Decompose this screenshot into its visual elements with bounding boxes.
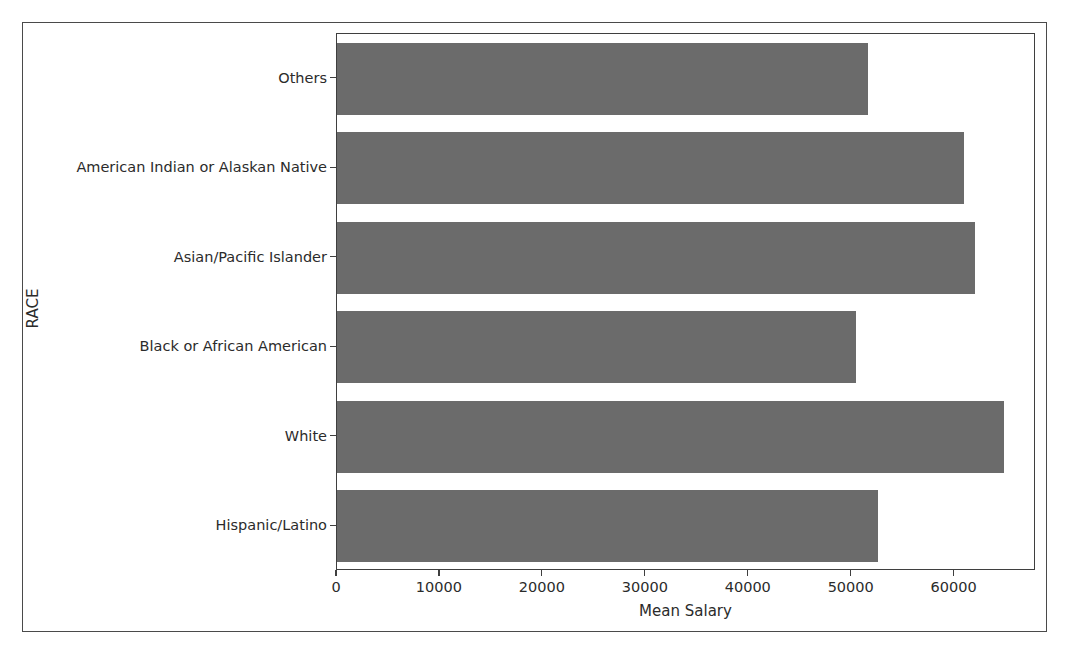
y-tick-label: Asian/Pacific Islander	[174, 250, 327, 265]
x-tick-mark	[850, 570, 851, 576]
x-tick-label: 10000	[416, 580, 462, 595]
x-tick-label: 40000	[725, 580, 771, 595]
bar	[337, 490, 878, 562]
y-tick-label: American Indian or Alaskan Native	[76, 160, 327, 175]
x-tick-mark	[953, 570, 954, 576]
x-tick-label: 30000	[622, 580, 668, 595]
y-tick-label: Hispanic/Latino	[216, 518, 327, 533]
x-tick-mark	[335, 570, 336, 576]
y-tick-label: White	[285, 429, 327, 444]
y-tick-label: Black or African American	[140, 339, 327, 354]
bar	[337, 401, 1004, 473]
bar	[337, 132, 964, 204]
x-tick-label: 20000	[519, 580, 565, 595]
x-tick-label: 0	[331, 580, 340, 595]
y-tick-label: Others	[278, 71, 327, 86]
plot-area	[336, 33, 1035, 570]
bar-chart: RACE Hispanic/LatinoWhiteBlack or Africa…	[0, 0, 1066, 658]
x-tick-label: 50000	[828, 580, 874, 595]
x-tick-mark	[747, 570, 748, 576]
x-axis-title: Mean Salary	[336, 604, 1035, 619]
x-tick-mark	[644, 570, 645, 576]
x-tick-label: 60000	[931, 580, 977, 595]
bar	[337, 222, 975, 294]
y-axis-tick-labels: Hispanic/LatinoWhiteBlack or African Ame…	[0, 0, 327, 658]
bar	[337, 43, 868, 115]
bar	[337, 311, 856, 383]
x-tick-mark	[541, 570, 542, 576]
x-tick-mark	[438, 570, 439, 576]
